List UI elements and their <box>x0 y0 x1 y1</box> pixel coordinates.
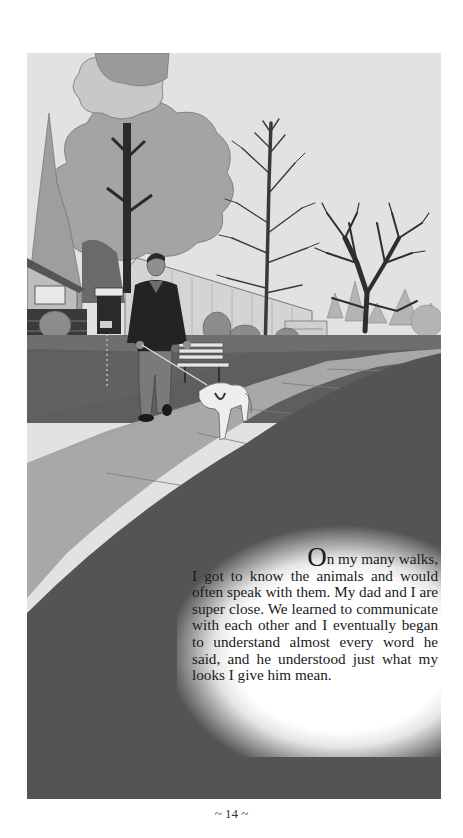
page-number: ~ 14 ~ <box>0 806 463 822</box>
story-body: I got to know the animals and would ofte… <box>192 568 438 684</box>
park-scene-drawing <box>27 53 441 799</box>
first-line-text: n my many walks, <box>327 550 438 567</box>
story-first-line: On my many walks, <box>192 549 438 568</box>
story-text: On my many walks, I got to know the anim… <box>192 549 438 684</box>
illustration <box>27 53 441 799</box>
